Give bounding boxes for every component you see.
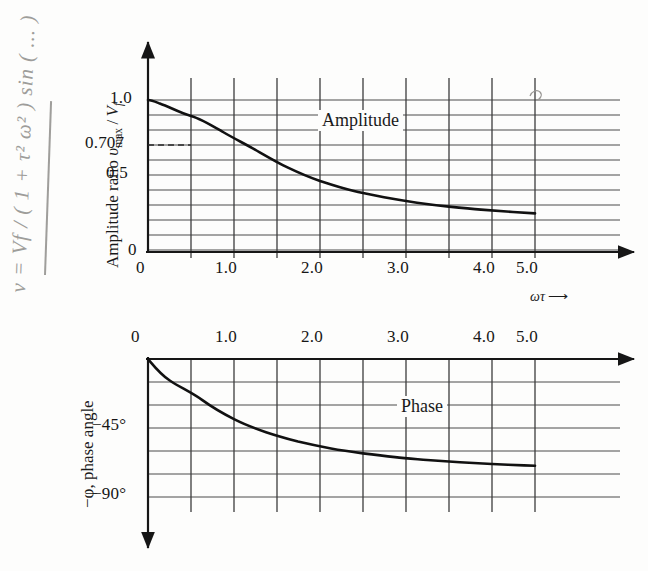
phase-chart xyxy=(146,357,634,548)
x-axis-symbol: ωτ xyxy=(530,289,545,304)
amplitude-chart xyxy=(146,42,634,258)
amplitude-xtick-40: 4.0 xyxy=(473,258,495,278)
x-axis-arrow: ⟶ xyxy=(548,289,568,304)
phase-xtick-20: 2.0 xyxy=(301,327,323,347)
amplitude-vertical-gridlines xyxy=(191,78,535,258)
amplitude-ytick-1: 1.0 xyxy=(110,88,132,108)
phase-xtick-30: 3.0 xyxy=(387,327,409,347)
amplitude-ytick-05: 0.5 xyxy=(106,163,128,183)
amplitude-xtick-30: 3.0 xyxy=(387,258,409,278)
phase-curve xyxy=(148,359,535,466)
phase-ytick-m90: −90° xyxy=(92,484,126,504)
amplitude-ytick-0707: 0.707 xyxy=(85,133,124,153)
amplitude-xtick-50: 5.0 xyxy=(516,258,538,278)
phase-horizontal-gridlines xyxy=(148,382,620,497)
phase-xtick-40: 4.0 xyxy=(473,327,495,347)
amplitude-y-axis-title: Amplitude ratio υmax / Vf xyxy=(103,103,125,268)
amplitude-series-label: Amplitude xyxy=(318,110,403,131)
amplitude-ytick-0: 0 xyxy=(128,240,137,260)
amplitude-y-axis-slash: / xyxy=(103,116,122,128)
amplitude-xtick-20: 2.0 xyxy=(301,258,323,278)
amplitude-xtick-0: 0 xyxy=(136,258,145,278)
phase-series-label: Phase xyxy=(397,396,447,417)
phase-xtick-10: 1.0 xyxy=(215,327,237,347)
x-axis-symbol-label: ωτ ⟶ xyxy=(530,288,568,305)
phase-xtick-50: 5.0 xyxy=(516,327,538,347)
amplitude-xtick-10: 1.0 xyxy=(215,258,237,278)
phase-ytick-m45: −45° xyxy=(92,415,126,435)
